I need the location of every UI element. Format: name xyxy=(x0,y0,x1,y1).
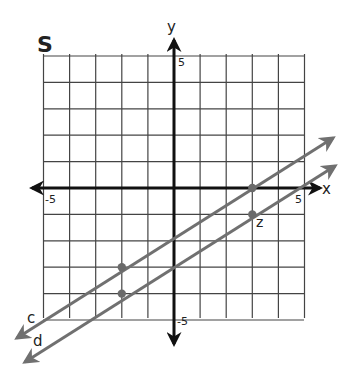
point-c xyxy=(118,263,126,271)
coordinate-plane: S y x -5 5 5 -5 c d z xyxy=(0,0,357,380)
chart-title: S xyxy=(37,32,53,57)
x-min-tick: -5 xyxy=(45,193,56,206)
line-c-label: c xyxy=(27,309,35,327)
y-axis-label: y xyxy=(167,18,176,36)
point-z-label: z xyxy=(256,214,263,230)
line-d xyxy=(25,166,335,362)
line-d-label: d xyxy=(33,332,43,350)
y-min-tick: -5 xyxy=(177,315,188,328)
y-max-tick: 5 xyxy=(178,56,185,69)
point-c xyxy=(248,184,256,192)
x-max-tick: 5 xyxy=(295,193,302,206)
x-axis-label: x xyxy=(322,180,331,198)
point-d xyxy=(118,289,126,297)
